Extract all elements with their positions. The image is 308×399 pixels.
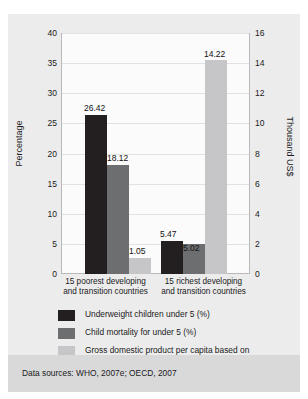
y-tick-left-25: 25 [48,119,57,128]
y-tick-left-35: 35 [48,59,57,68]
category-label-poorest-line2: and transition countries [54,287,157,297]
category-label-richest-line1: 15 richest developing [152,277,255,287]
y-tick-right-14: 14 [255,59,264,68]
y-tick-left-40: 40 [48,29,57,38]
bar-richest-gdp [205,60,227,274]
y-tick-right-12: 12 [255,89,264,98]
axis-line-right [249,33,250,274]
y-tick-left-10: 10 [48,210,57,219]
y-tick-right-6: 6 [255,180,260,189]
y-tick-right-4: 4 [255,210,260,219]
value-label-richest-child-mortality: 5.02 [183,244,200,253]
bar-poorest-gdp [129,258,151,274]
value-label-richest-gdp: 14.22 [204,50,225,59]
y-tick-right-16: 16 [255,29,264,38]
y-tick-left-15: 15 [48,180,57,189]
bar-richest-underweight [161,241,183,274]
y-tick-left-5: 5 [52,240,57,249]
bar-poorest-child-mortality [107,165,129,274]
data-sources-text: Data sources: WHO, 2007e; OECD, 2007 [22,369,177,377]
legend-item-child-mortality: Child mortality for under 5 (%) [58,327,296,339]
chart-panel: 26.42 18.12 1.05 5.47 5.02 14.22 40 35 3… [8,14,300,392]
y-axis-left: 40 35 30 25 20 15 10 5 0 [34,33,57,274]
value-label-poorest-child-mortality: 18.12 [107,154,128,163]
category-label-richest: 15 richest developing and transition cou… [152,277,255,297]
y-axis-left-title: Percentage [15,109,24,179]
y-tick-right-8: 8 [255,150,260,159]
legend-swatch-underweight [58,310,75,321]
y-tick-left-20: 20 [48,150,57,159]
legend-item-underweight: Underweight children under 5 (%) [58,309,296,321]
y-axis-right: 16 14 12 10 8 6 4 2 0 [255,33,275,274]
y-tick-right-2: 2 [255,240,260,249]
axis-line-left [61,33,62,274]
legend-label-child-mortality: Child mortality for under 5 (%) [85,327,196,338]
y-tick-right-10: 10 [255,119,264,128]
value-label-richest-underweight: 5.47 [160,230,177,239]
legend-label-underweight: Underweight children under 5 (%) [85,309,210,320]
chart-figure: 26.42 18.12 1.05 5.47 5.02 14.22 40 35 3… [0,0,308,399]
category-label-richest-line2: and transition countries [152,287,255,297]
category-label-poorest: 15 poorest developing and transition cou… [54,277,157,297]
plot-area: 26.42 18.12 1.05 5.47 5.02 14.22 [61,33,250,274]
value-label-poorest-gdp: 1.05 [129,247,146,256]
y-tick-left-30: 30 [48,89,57,98]
y-axis-right-title: Thousand US$ [285,107,294,187]
value-label-poorest-underweight: 26.42 [84,104,105,113]
bar-poorest-underweight [85,115,107,274]
y-tick-right-0: 0 [255,270,260,279]
x-axis-categories: 15 poorest developing and transition cou… [61,277,250,301]
legend-label-gdp-line1: Gross domestic product per capita based … [85,345,249,356]
gridline-40 [61,33,250,34]
category-label-poorest-line1: 15 poorest developing [54,277,157,287]
legend-swatch-child-mortality [58,328,75,339]
